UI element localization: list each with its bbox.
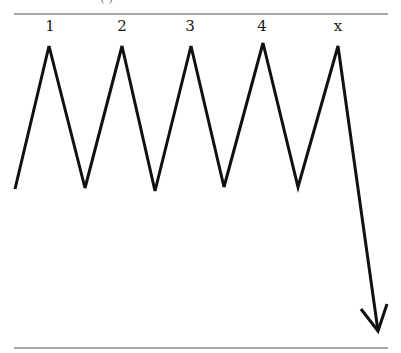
wave-label-2: 2 [117, 17, 127, 35]
wave-label-1: 1 [45, 17, 55, 35]
wave-label-x: x [334, 17, 342, 35]
wave-label-4: 4 [257, 17, 267, 35]
wave-diagram [0, 0, 401, 353]
wave-label-3: 3 [185, 17, 195, 35]
zigzag-wave-line [15, 43, 378, 331]
